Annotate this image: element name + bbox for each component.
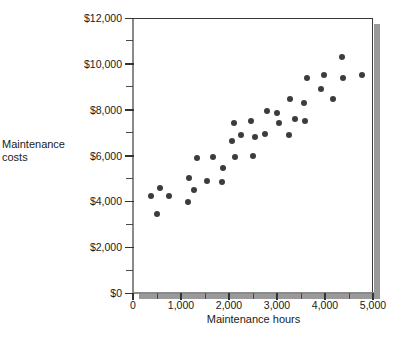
data-point — [210, 154, 216, 160]
x-tick-label: 2,000 — [204, 299, 254, 311]
y-tick-label-text: $8,000 — [66, 104, 122, 116]
scatter-chart-figure: Maintenance costs $0$2,000$4,000$6,000$8… — [0, 0, 398, 337]
y-tick-label-text: $0 — [66, 287, 122, 299]
y-tick-label-text: $2,000 — [66, 241, 122, 253]
data-point — [264, 108, 270, 114]
y-tick-minor — [126, 40, 133, 41]
plot-shadow-right — [374, 24, 380, 299]
x-tick-label: 5,000 — [348, 299, 398, 311]
y-tick-label: $4,000 — [60, 195, 122, 207]
y-tick-major — [125, 247, 134, 249]
y-tick-minor — [126, 132, 133, 133]
data-point — [220, 165, 226, 171]
data-point — [166, 193, 172, 199]
x-tick-minor — [253, 293, 254, 299]
y-tick-label: $2,000 — [60, 241, 122, 253]
x-axis-title: Maintenance hours — [133, 313, 374, 325]
x-tick-label: 0 — [108, 299, 158, 311]
y-tick-label: $12,000 — [60, 12, 122, 24]
y-tick-label: $10,000 — [60, 58, 122, 70]
data-point — [148, 193, 154, 199]
x-tick-minor — [349, 293, 350, 299]
y-tick-label-text: $10,000 — [66, 58, 122, 70]
data-point — [274, 110, 280, 116]
y-axis-title-line1: Maintenance — [2, 138, 65, 150]
x-tick-minor — [157, 293, 158, 299]
y-tick-major — [125, 155, 134, 157]
x-tick-label: 1,000 — [156, 299, 206, 311]
data-point — [219, 179, 225, 185]
y-tick-major — [125, 63, 134, 65]
y-tick-minor — [126, 178, 133, 179]
data-point — [301, 100, 307, 106]
y-tick-minor — [126, 224, 133, 225]
y-tick-label-text: $6,000 — [66, 150, 122, 162]
data-point — [340, 75, 346, 81]
y-tick-label: $6,000 — [60, 150, 122, 162]
data-point — [157, 185, 163, 191]
data-point — [154, 211, 160, 217]
x-tick-minor — [205, 293, 206, 299]
y-tick-minor — [126, 270, 133, 271]
data-point — [204, 178, 210, 184]
y-tick-major — [125, 18, 134, 20]
y-tick-label: $0 — [60, 287, 122, 299]
y-tick-major — [125, 109, 134, 111]
y-tick-major — [125, 201, 134, 203]
data-point — [304, 75, 310, 81]
y-tick-label-text: $12,000 — [66, 12, 122, 24]
data-point — [248, 118, 254, 124]
data-point — [286, 132, 292, 138]
data-point — [229, 138, 235, 144]
data-point — [250, 153, 256, 159]
x-tick-minor — [301, 293, 302, 299]
x-tick-label: 4,000 — [300, 299, 350, 311]
data-point — [191, 187, 197, 193]
y-tick-minor — [126, 86, 133, 87]
y-tick-label-text: $4,000 — [66, 195, 122, 207]
y-tick-label: $8,000 — [60, 104, 122, 116]
x-tick-label: 3,000 — [252, 299, 302, 311]
data-point — [232, 154, 238, 160]
